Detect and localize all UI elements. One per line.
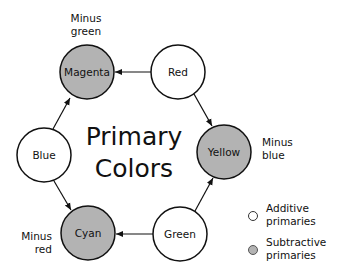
node-label-red: Red	[168, 66, 188, 78]
title-line-1: Primary	[86, 122, 183, 151]
legend-subtractive-line-1: Subtractive	[266, 236, 326, 248]
title-line-2: Colors	[95, 154, 173, 183]
node-red: Red	[151, 45, 205, 99]
legend-additive-swatch	[249, 212, 258, 221]
note-cyan-line-1: Minus	[21, 230, 52, 242]
note-yellow-line-2: blue	[262, 149, 285, 161]
arrow-blue-to-cyan	[54, 181, 71, 210]
note-cyan-line-2: red	[35, 243, 52, 255]
node-yellow: Yellow	[197, 125, 251, 179]
legend: Additive primaries Subtractive primaries	[249, 202, 327, 261]
node-label-green: Green	[164, 228, 196, 240]
note-magenta-line-2: green	[71, 25, 101, 37]
node-magenta: Magenta	[60, 45, 114, 99]
legend-subtractive-swatch	[249, 246, 258, 255]
legend-additive-line-2: primaries	[266, 215, 316, 227]
node-green: Green	[153, 207, 207, 261]
node-label-cyan: Cyan	[75, 227, 102, 239]
arrow-green-to-yellow	[195, 178, 213, 211]
note-yellow-line-1: Minus	[262, 136, 293, 148]
arrow-red-to-yellow	[194, 94, 212, 126]
node-label-yellow: Yellow	[207, 146, 241, 158]
note-magenta-line-1: Minus	[71, 12, 102, 24]
arrow-blue-to-magenta	[53, 98, 70, 129]
node-label-magenta: Magenta	[64, 66, 110, 78]
node-label-blue: Blue	[32, 149, 55, 161]
legend-subtractive-line-2: primaries	[266, 249, 316, 261]
legend-additive-line-1: Additive	[266, 202, 309, 214]
primary-colors-diagram: Magenta Red Yellow Green Cyan Blue Prima…	[0, 0, 344, 278]
node-blue: Blue	[17, 128, 71, 182]
node-cyan: Cyan	[61, 206, 115, 260]
